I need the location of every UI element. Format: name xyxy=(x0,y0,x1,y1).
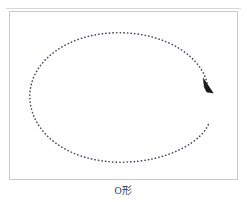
figure-root: O形 xyxy=(0,0,247,202)
gesture-canvas xyxy=(10,12,237,179)
figure-caption: O形 xyxy=(114,185,132,197)
top-divider-rule xyxy=(6,8,241,9)
caption-row: O形 xyxy=(9,182,238,200)
arrowhead-icon xyxy=(203,78,213,93)
o-shape-dotted-path xyxy=(30,33,209,162)
gesture-illustration-frame xyxy=(9,11,238,180)
